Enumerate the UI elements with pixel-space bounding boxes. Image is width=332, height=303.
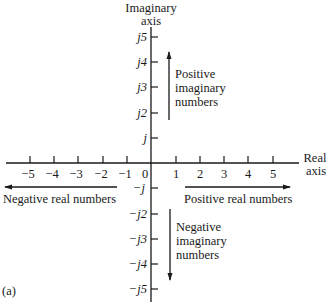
complex-plane-diagram: Imaginary axis Real axis j5 j4 j3 j2 j −… — [0, 0, 332, 303]
tick-label-2: 2 — [197, 167, 203, 181]
tick-label-neg1: −1 — [118, 167, 131, 181]
panel-label: (a) — [2, 284, 16, 298]
tick-label-4: 4 — [245, 167, 252, 181]
tick-label-j2: j2 — [135, 106, 147, 120]
tick-label-1: 1 — [173, 167, 179, 181]
tick-label-origin: 0 — [142, 167, 148, 181]
tick-label-3: 3 — [221, 167, 227, 181]
tick-label-neg2: −2 — [94, 167, 107, 181]
positive-imaginary-line2: imaginary — [175, 81, 226, 95]
negative-imaginary-line3: numbers — [176, 248, 219, 262]
positive-imaginary-line3: numbers — [175, 95, 218, 109]
real-axis-title-line2: axis — [306, 164, 326, 178]
tick-label-neg-j4: −j4 — [129, 257, 147, 271]
negative-imaginary-line2: imaginary — [176, 234, 227, 248]
real-axis-title-line1: Real — [304, 151, 327, 165]
tick-label-neg-j5: −j5 — [129, 282, 147, 296]
tick-label-neg5: −5 — [21, 167, 34, 181]
tick-label-neg3: −3 — [69, 167, 82, 181]
tick-label-j5: j5 — [135, 30, 147, 44]
tick-label-neg-j1: −j — [133, 181, 145, 195]
positive-imaginary-line1: Positive — [175, 67, 216, 81]
negative-real-label: Negative real numbers — [3, 192, 116, 206]
imaginary-axis-title-line1: Imaginary — [125, 1, 177, 15]
tick-label-neg4: −4 — [45, 167, 59, 181]
tick-label-5: 5 — [270, 167, 276, 181]
tick-label-j3: j3 — [135, 80, 147, 94]
tick-label-neg-j2: −j2 — [129, 207, 147, 221]
tick-label-j1: j — [142, 131, 148, 145]
negative-imaginary-line1: Negative — [176, 220, 222, 234]
imaginary-negative-ticks — [151, 188, 158, 289]
tick-label-neg-j3: −j3 — [129, 232, 147, 246]
imaginary-axis-title-line2: axis — [141, 14, 161, 28]
imaginary-positive-ticks — [151, 37, 158, 138]
positive-real-label: Positive real numbers — [184, 192, 292, 206]
tick-label-j4: j4 — [135, 55, 147, 69]
